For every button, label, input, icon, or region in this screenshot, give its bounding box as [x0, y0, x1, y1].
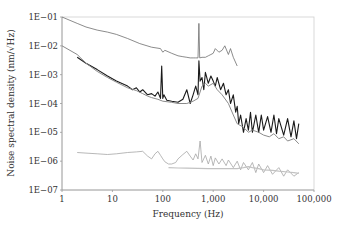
series-line-upper-thin	[62, 17, 237, 66]
y-tick-label: 1E−03	[28, 70, 58, 80]
y-tick-group: 1E−011E−021E−031E−041E−051E−061E−07	[28, 12, 62, 195]
y-tick-label: 1E−05	[28, 127, 58, 137]
y-tick-label: 1E−02	[28, 41, 58, 51]
x-tick-label: 10	[107, 194, 118, 204]
y-axis-title: Noise spectral density (nm/√Hz)	[6, 29, 16, 176]
x-tick-label: 100,000	[296, 194, 331, 204]
x-tick-label: 1	[59, 194, 64, 204]
x-tick-label: 1,000	[201, 194, 225, 204]
y-tick-label: 1E−01	[28, 12, 58, 22]
x-tick-group: 1101001,00010,000100,000	[59, 190, 331, 204]
series-line-black-main	[77, 57, 299, 138]
x-tick-label: 100	[155, 194, 171, 204]
y-tick-label: 1E−07	[28, 185, 58, 195]
series-line-light-noise	[77, 141, 299, 176]
x-tick-label: 10,000	[249, 194, 279, 204]
series-layer	[62, 17, 299, 176]
y-tick-label: 1E−06	[28, 156, 58, 166]
noise-spectral-density-chart: 1E−011E−021E−031E−041E−051E−061E−07 1101…	[0, 0, 343, 230]
y-tick-label: 1E−04	[28, 99, 58, 109]
x-axis-title: Frequency (Hz)	[152, 209, 223, 219]
